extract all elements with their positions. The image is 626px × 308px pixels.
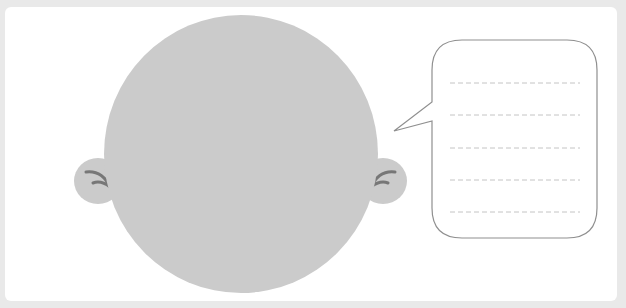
speech-bubble xyxy=(394,40,597,238)
head-circle xyxy=(104,15,378,293)
head-and-bubble-illustration xyxy=(0,0,626,308)
